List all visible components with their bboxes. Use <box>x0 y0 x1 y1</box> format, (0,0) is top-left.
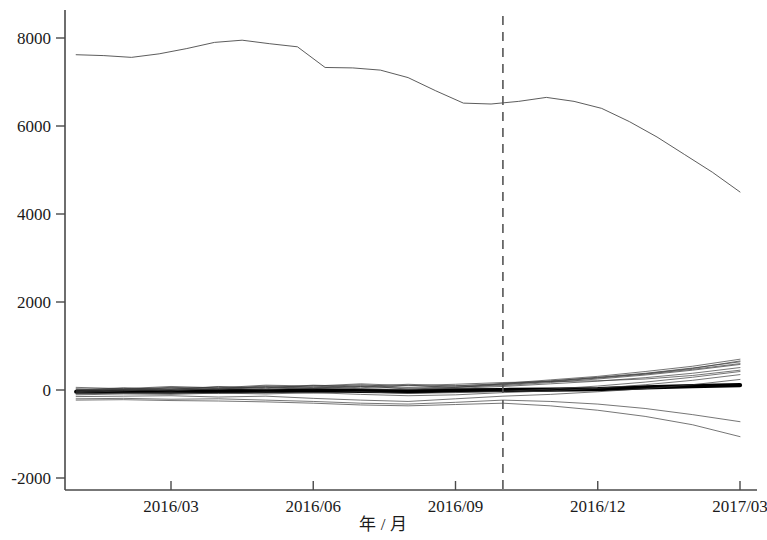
series-layer <box>76 40 740 436</box>
x-tick-label: 2016/06 <box>285 497 341 516</box>
x-axis-ticks: 2016/032016/062016/092016/122017/03 <box>143 481 767 516</box>
series-line-thin-series-08 <box>76 398 740 421</box>
series-line-thin-series-09 <box>76 400 740 437</box>
series-line-large-level-series <box>76 40 740 192</box>
chart-canvas: 80006000400020000-2000 2016/032016/06201… <box>0 0 767 540</box>
y-tick-label: 2000 <box>17 293 51 312</box>
y-axis-ticks: 80006000400020000-2000 <box>11 29 65 488</box>
x-tick-label: 2017/03 <box>712 497 767 516</box>
x-tick-label: 2016/09 <box>428 497 484 516</box>
x-tick-label: 2016/03 <box>143 497 199 516</box>
y-tick-label: 6000 <box>17 117 51 136</box>
line-chart: 80006000400020000-2000 2016/032016/06201… <box>0 0 767 540</box>
x-axis-title: 年 / 月 <box>359 515 406 534</box>
x-tick-label: 2016/12 <box>570 497 626 516</box>
y-tick-label: 4000 <box>17 205 51 224</box>
y-tick-label: 8000 <box>17 29 51 48</box>
y-tick-label: 0 <box>43 381 52 400</box>
y-tick-label: -2000 <box>11 469 51 488</box>
